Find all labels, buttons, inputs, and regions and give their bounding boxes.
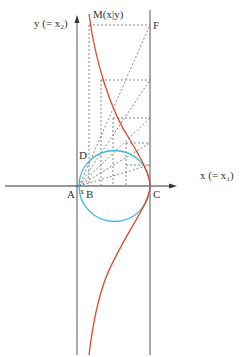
x-axis-arrow-icon	[169, 184, 177, 189]
cissoid-curve	[89, 14, 150, 355]
point-f-label: F	[153, 19, 159, 31]
point-b-label: B	[86, 188, 93, 200]
point-m-label: M(x|y)	[93, 8, 124, 21]
point-d-label: D	[79, 149, 87, 161]
y-axis-label: y (= x2)	[34, 17, 68, 31]
x-axis-label: x (= x1)	[200, 169, 234, 183]
dashed-construction-lines	[79, 25, 150, 186]
cissoid-diagram: y (= x2) x (= x1) M(x|y) F D A B C x	[0, 0, 252, 357]
y-axis-arrow-icon	[75, 15, 80, 23]
point-c-label: C	[153, 188, 160, 200]
segment-x-label: x	[80, 187, 84, 196]
point-a-label: A	[67, 188, 75, 200]
